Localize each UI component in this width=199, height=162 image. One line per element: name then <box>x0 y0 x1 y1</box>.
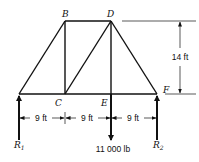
truss-diagram: 14 ft 9 ft 9 ft 9 ft B D C E F R1 11 000… <box>0 0 199 162</box>
span-2-label: 9 ft <box>81 113 93 123</box>
span-1-label: 9 ft <box>35 113 47 123</box>
force-labels: R1 11 000 lb R2 <box>13 140 164 154</box>
member-DF <box>111 21 157 94</box>
reaction-right-label: R2 <box>152 140 164 151</box>
joint-label-d: D <box>106 9 114 19</box>
span-3-label: 9 ft <box>127 113 139 123</box>
joint-label-c: C <box>55 98 62 108</box>
member-AB <box>19 21 65 94</box>
reaction-left-label: R1 <box>13 140 25 151</box>
member-CD <box>65 21 111 94</box>
joint-label-f: F <box>162 85 170 95</box>
joint-label-b: B <box>61 9 69 19</box>
joint-label-e: E <box>100 98 108 108</box>
applied-load-label: 11 000 lb <box>96 144 131 154</box>
height-label: 14 ft <box>172 52 189 62</box>
span-dimensions: 9 ft 9 ft 9 ft <box>20 112 156 124</box>
height-dimension: 14 ft <box>122 21 196 94</box>
truss-members <box>19 21 157 94</box>
